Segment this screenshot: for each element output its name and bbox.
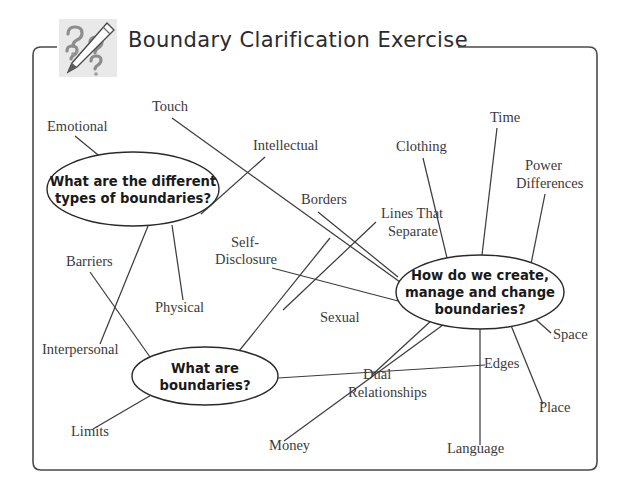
leaf-label-intellectual[interactable]: Intellectual (253, 137, 318, 153)
leaf-label-money[interactable]: Money (269, 437, 311, 453)
leaf-label-dual1[interactable]: Dual (363, 366, 391, 382)
leaf-label-edges[interactable]: Edges (484, 355, 520, 371)
leaf-label-time[interactable]: Time (490, 109, 520, 125)
worksheet-page: Boundary Clarification Exercise What are… (0, 0, 629, 497)
node-label-line: boundaries? (159, 378, 250, 393)
leaf-label-dual2[interactable]: Relationships (348, 384, 427, 400)
mindmap-edge (318, 212, 398, 277)
mindmap-edge (100, 226, 148, 344)
leaf-label-sexual[interactable]: Sexual (320, 309, 359, 325)
node-ellipse (47, 152, 219, 226)
node-label-line: What are the different (50, 174, 217, 189)
node-label-line: manage and change (405, 285, 555, 300)
node-ellipse (132, 347, 278, 405)
mindmap-edge (283, 222, 376, 310)
leaf-label-space[interactable]: Space (553, 326, 588, 342)
leaf-label-physical[interactable]: Physical (155, 299, 204, 315)
leaf-label-linesthat1[interactable]: Lines That (381, 205, 443, 221)
mindmap-node-create[interactable]: How do we create,manage and changebounda… (396, 255, 564, 329)
leaf-label-power1[interactable]: Power (525, 157, 562, 173)
leaf-label-language[interactable]: Language (447, 440, 504, 456)
leaf-label-linesthat2[interactable]: Separate (388, 223, 438, 239)
mindmap-edge (172, 225, 183, 300)
mindmap-node-what[interactable]: What areboundaries? (132, 347, 278, 405)
mindmap-canvas: What are the differenttypes of boundarie… (0, 0, 629, 497)
leaf-label-touch[interactable]: Touch (152, 98, 189, 114)
leaf-label-place[interactable]: Place (539, 399, 570, 415)
mindmap-edge (531, 194, 545, 264)
mindmap-edge (482, 128, 497, 255)
leaf-label-selfdisc1[interactable]: Self- (231, 234, 259, 250)
leaf-label-barriers[interactable]: Barriers (66, 253, 113, 269)
leaf-label-clothing[interactable]: Clothing (396, 138, 447, 154)
leaf-label-interperson[interactable]: Interpersonal (42, 341, 119, 357)
node-label-line: types of boundaries? (55, 191, 211, 206)
leaf-label-power2[interactable]: Differences (516, 175, 584, 191)
node-label-line: What are (171, 361, 239, 376)
node-label-line: How do we create, (411, 268, 549, 283)
leaf-label-selfdisc2[interactable]: Disclosure (215, 251, 277, 267)
mindmap-node-types[interactable]: What are the differenttypes of boundarie… (47, 152, 219, 226)
node-label-line: boundaries? (434, 302, 525, 317)
leaf-label-limits[interactable]: Limits (71, 423, 109, 439)
leaf-label-borders[interactable]: Borders (301, 191, 347, 207)
leaf-label-emotional[interactable]: Emotional (47, 118, 107, 134)
